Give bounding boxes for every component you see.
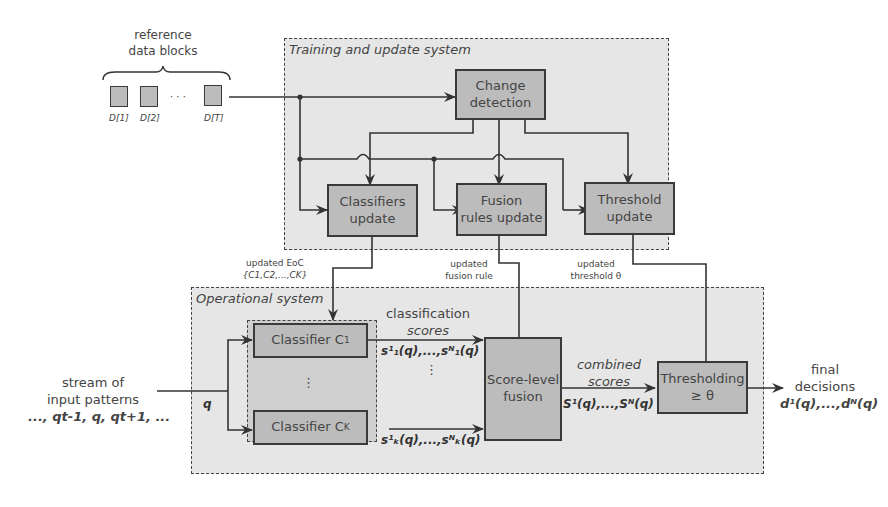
classifier-vdots: ⋮ xyxy=(302,375,315,392)
thresholding-block[interactable]: Thresholding≥ θ xyxy=(657,361,748,414)
data-block-T xyxy=(204,85,222,106)
updated-fusion-rule-label: updated fusion rule xyxy=(440,259,498,282)
data-blocks-ellipsis: · · · xyxy=(170,90,186,103)
threshold-update-block[interactable]: Thresholdupdate xyxy=(584,182,675,235)
combined-scores-values: S¹(q),...,Sᴺ(q) xyxy=(563,397,654,411)
reference-data-label: reference data blocks xyxy=(118,28,208,59)
scores-vdots: ⋮ xyxy=(425,362,438,379)
classifier-1-block[interactable]: Classifier C1 xyxy=(253,323,368,358)
updated-eoc-label: updated EoC {C1,C2,...,CK} xyxy=(238,258,312,281)
input-stream-label: stream of input patterns ..., qt-1, q, q… xyxy=(28,375,158,426)
updated-threshold-label: updated threshold θ xyxy=(563,259,629,282)
fusion-rules-update-block[interactable]: Fusionrules update xyxy=(456,183,547,236)
final-decisions-label: final decisions d¹(q),...,dᴺ(q) xyxy=(780,362,870,413)
classifier-k-scores: s¹ₖ(q),...,sᴺₖ(q) xyxy=(381,433,480,447)
data-block-T-label: D[T] xyxy=(204,113,223,123)
classifiers-update-block[interactable]: Classifiersupdate xyxy=(327,184,418,237)
classification-scores-label: classification scores xyxy=(383,306,473,340)
change-detection-block[interactable]: Changedetection xyxy=(455,69,546,120)
data-block-1-label: D[1] xyxy=(109,113,129,123)
data-block-2-label: D[2] xyxy=(140,113,160,123)
q-label: q xyxy=(203,397,212,411)
data-block-1 xyxy=(110,86,128,107)
classifier-1-scores: s¹₁(q),...,sᴺ₁(q) xyxy=(381,344,479,358)
combined-scores-label: combined scores xyxy=(570,357,648,391)
classifier-k-block[interactable]: Classifier CK xyxy=(253,410,368,445)
data-block-2 xyxy=(140,86,158,107)
score-level-fusion-block[interactable]: Score-levelfusion xyxy=(484,337,562,441)
connection-wires xyxy=(0,0,888,507)
